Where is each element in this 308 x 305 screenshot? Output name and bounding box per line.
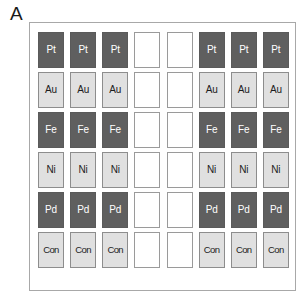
well-con: Con xyxy=(70,232,96,268)
well-pt: Pt xyxy=(231,32,257,68)
well-label: Au xyxy=(45,85,57,95)
well-empty xyxy=(134,72,160,108)
well-label: Pd xyxy=(206,205,218,215)
well-label: Ni xyxy=(207,165,216,175)
well-fe: Fe xyxy=(38,112,64,148)
well-label: Ni xyxy=(271,165,280,175)
well-label: Pd xyxy=(77,205,89,215)
well-label: Pd xyxy=(45,205,57,215)
well-label: Au xyxy=(206,85,218,95)
well-label: Con xyxy=(43,245,59,255)
well-ni: Ni xyxy=(38,152,64,188)
well-ni: Ni xyxy=(70,152,96,188)
well-au: Au xyxy=(102,72,128,108)
well-label: Fe xyxy=(110,125,121,135)
well-label: Pt xyxy=(46,45,55,55)
well-ni: Ni xyxy=(231,152,257,188)
panel-root: A PtPtPtPtPtPtAuAuAuAuAuAuFeFeFeFeFeFeNi… xyxy=(0,0,308,305)
well-label: Fe xyxy=(206,125,217,135)
well-con: Con xyxy=(231,232,257,268)
well-label: Fe xyxy=(45,125,56,135)
well-label: Au xyxy=(77,85,89,95)
well-label: Pd xyxy=(238,205,250,215)
well-pd: Pd xyxy=(102,192,128,228)
well-empty xyxy=(167,232,193,268)
well-empty xyxy=(167,112,193,148)
well-pt: Pt xyxy=(263,32,289,68)
well-ni: Ni xyxy=(199,152,225,188)
well-empty xyxy=(167,72,193,108)
well-grid: PtPtPtPtPtPtAuAuAuAuAuAuFeFeFeFeFeFeNiNi… xyxy=(38,32,289,283)
well-pd: Pd xyxy=(38,192,64,228)
well-label: Pt xyxy=(271,45,280,55)
well-label: Con xyxy=(204,245,220,255)
well-fe: Fe xyxy=(70,112,96,148)
well-label: Pt xyxy=(239,45,248,55)
well-con: Con xyxy=(102,232,128,268)
well-empty xyxy=(134,32,160,68)
well-pt: Pt xyxy=(38,32,64,68)
well-empty xyxy=(167,32,193,68)
well-empty xyxy=(134,152,160,188)
well-pd: Pd xyxy=(199,192,225,228)
well-pd: Pd xyxy=(263,192,289,228)
well-pd: Pd xyxy=(70,192,96,228)
well-ni: Ni xyxy=(263,152,289,188)
well-label: Au xyxy=(270,85,282,95)
well-empty xyxy=(167,152,193,188)
well-label: Pt xyxy=(79,45,88,55)
well-fe: Fe xyxy=(102,112,128,148)
well-label: Ni xyxy=(46,165,55,175)
well-label: Pd xyxy=(109,205,121,215)
well-con: Con xyxy=(38,232,64,268)
well-con: Con xyxy=(263,232,289,268)
well-label: Au xyxy=(238,85,250,95)
well-pd: Pd xyxy=(231,192,257,228)
well-con: Con xyxy=(199,232,225,268)
well-label: Fe xyxy=(270,125,281,135)
microplate-outline: PtPtPtPtPtPtAuAuAuAuAuAuFeFeFeFeFeFeNiNi… xyxy=(29,22,296,291)
well-pt: Pt xyxy=(102,32,128,68)
well-label: Con xyxy=(107,245,123,255)
well-pt: Pt xyxy=(199,32,225,68)
well-au: Au xyxy=(199,72,225,108)
well-fe: Fe xyxy=(263,112,289,148)
well-label: Ni xyxy=(111,165,120,175)
well-label: Au xyxy=(109,85,121,95)
well-empty xyxy=(134,112,160,148)
well-empty xyxy=(134,232,160,268)
well-label: Ni xyxy=(79,165,88,175)
well-label: Fe xyxy=(77,125,88,135)
well-pt: Pt xyxy=(70,32,96,68)
well-label: Pt xyxy=(207,45,216,55)
well-label: Con xyxy=(268,245,284,255)
well-empty xyxy=(167,192,193,228)
well-label: Pd xyxy=(270,205,282,215)
well-fe: Fe xyxy=(231,112,257,148)
well-label: Con xyxy=(75,245,91,255)
well-ni: Ni xyxy=(102,152,128,188)
well-label: Fe xyxy=(238,125,249,135)
well-label: Ni xyxy=(239,165,248,175)
well-au: Au xyxy=(70,72,96,108)
well-au: Au xyxy=(231,72,257,108)
panel-letter-label: A xyxy=(10,4,23,23)
well-label: Pt xyxy=(111,45,120,55)
well-empty xyxy=(134,192,160,228)
well-fe: Fe xyxy=(199,112,225,148)
well-au: Au xyxy=(263,72,289,108)
well-au: Au xyxy=(38,72,64,108)
well-label: Con xyxy=(236,245,252,255)
